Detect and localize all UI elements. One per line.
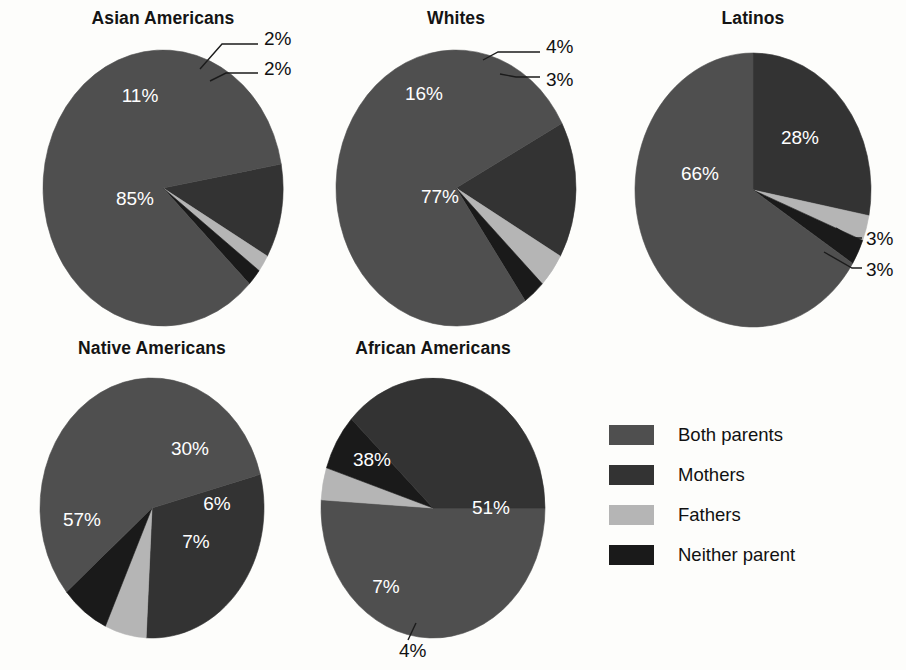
legend-swatch-both bbox=[609, 425, 654, 445]
legend-label-both: Both parents bbox=[678, 424, 783, 446]
pie-chart-figure: Asian Americans Whites Latinos Native Am… bbox=[0, 0, 906, 670]
legend-label-mothers: Mothers bbox=[678, 464, 745, 486]
legend: Both parentsMothersFathersNeither parent bbox=[609, 415, 889, 575]
legend-item-fathers: Fathers bbox=[609, 495, 889, 535]
legend-label-neither: Neither parent bbox=[678, 544, 795, 566]
slice-value-label-neither: 7% bbox=[372, 576, 400, 597]
legend-item-both: Both parents bbox=[609, 415, 889, 455]
legend-swatch-mothers bbox=[609, 465, 654, 485]
legend-swatch-fathers bbox=[609, 505, 654, 525]
slice-value-label-fathers: 4% bbox=[399, 640, 427, 661]
legend-label-fathers: Fathers bbox=[678, 504, 741, 526]
slice-value-label-both: 51% bbox=[472, 497, 510, 518]
pie-slice-both bbox=[321, 500, 545, 638]
slice-value-label-mothers: 38% bbox=[353, 449, 391, 470]
legend-swatch-neither bbox=[609, 545, 654, 565]
legend-item-neither: Neither parent bbox=[609, 535, 889, 575]
legend-item-mothers: Mothers bbox=[609, 455, 889, 495]
